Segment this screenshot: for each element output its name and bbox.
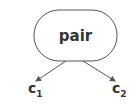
edge-to-c1 xyxy=(36,61,66,81)
diagram-canvas: pair c1 c2 xyxy=(0,0,137,107)
leaf-c2-label: c2 xyxy=(112,80,127,99)
root-node-label: pair xyxy=(59,27,93,45)
leaf-c1: c1 xyxy=(28,80,43,99)
leaf-c2: c2 xyxy=(112,80,127,99)
leaf-c1-label: c1 xyxy=(28,80,43,99)
edge-to-c2 xyxy=(83,61,115,81)
root-node: pair xyxy=(34,10,117,61)
